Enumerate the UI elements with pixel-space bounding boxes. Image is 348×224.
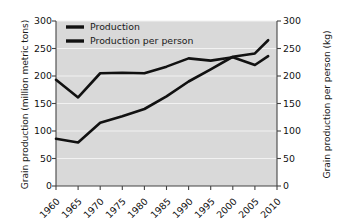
y-tick-label-left: 0 <box>26 180 52 191</box>
y-tick-label-left: 150 <box>26 98 52 109</box>
y-tick-label-left: 250 <box>26 43 52 54</box>
y-tick-label-right: 100 <box>283 125 309 136</box>
y-tick-label-left: 100 <box>26 125 52 136</box>
legend-label-1: Production per person <box>90 35 194 46</box>
legend-label-0: Production <box>90 21 140 32</box>
y-tick-label-right: 50 <box>283 153 309 164</box>
y-tick-label-right: 150 <box>283 98 309 109</box>
y-tick-label-right: 0 <box>283 180 309 191</box>
y-tick-label-right: 200 <box>283 70 309 81</box>
y-tick-label-right: 250 <box>283 43 309 54</box>
y-tick-label-right: 300 <box>283 15 309 26</box>
y-tick-label-left: 300 <box>26 15 52 26</box>
y-tick-label-left: 50 <box>26 153 52 164</box>
chart-figure: Grain production (million metric tons) G… <box>0 0 348 224</box>
y-tick-label-left: 200 <box>26 70 52 81</box>
